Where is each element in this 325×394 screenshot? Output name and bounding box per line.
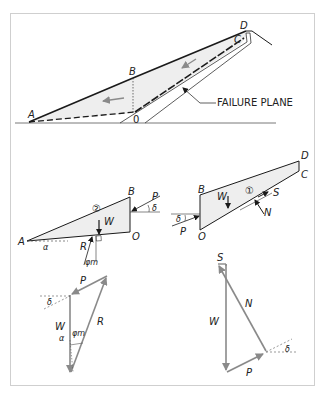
delta-arc	[148, 205, 149, 212]
force-N-arrow	[255, 200, 264, 214]
wedge-1-free-body: ① W S N δ P B O D C	[171, 150, 309, 242]
wedge-2-number: ②	[92, 203, 101, 214]
point-C: C	[234, 34, 241, 45]
top-cross-section: FAILURE PLANE A B D C 0	[15, 20, 293, 125]
polygon-force-P	[227, 354, 263, 372]
label-W: W	[104, 216, 115, 227]
wedge-1-number: ①	[245, 185, 254, 196]
point-O: O	[132, 231, 140, 242]
label-R: R	[80, 241, 87, 252]
label-W: W	[209, 316, 220, 327]
label-alpha: α	[59, 334, 65, 343]
point-B: B	[128, 186, 135, 197]
point-C: C	[301, 169, 308, 180]
label-S: S	[217, 252, 224, 263]
label-N: N	[245, 298, 253, 309]
label-N: N	[264, 207, 272, 218]
label-phi-m: φm	[72, 329, 85, 338]
label-R: R	[97, 316, 104, 327]
point-A: A	[27, 109, 35, 120]
label-P: P	[80, 275, 87, 286]
label-delta: δ	[176, 215, 181, 224]
force-polygon-2: P δ W α φm R	[40, 275, 107, 372]
point-D: D	[240, 20, 248, 31]
wedge-2-shape	[27, 197, 130, 241]
point-O: 0	[133, 114, 139, 125]
label-P: P	[152, 191, 159, 202]
point-B: B	[198, 184, 205, 195]
failure-plane-label: FAILURE PLANE	[217, 97, 293, 108]
label-P: P	[246, 367, 253, 378]
label-delta: δ	[152, 204, 157, 213]
point-A: A	[17, 236, 25, 247]
point-O: O	[198, 231, 206, 242]
label-delta: δ	[285, 345, 290, 354]
label-phi-m: φm	[85, 258, 98, 267]
slope-stability-diagram: FAILURE PLANE A B D C 0 ② W P δ R φm A α…	[0, 0, 325, 394]
force-polygon-1: S N W P δ	[209, 252, 296, 378]
label-W: W	[217, 191, 228, 202]
tension-crack	[246, 33, 251, 43]
delta-arc	[185, 215, 186, 221]
label-alpha: α	[43, 243, 49, 252]
point-D: D	[301, 150, 309, 161]
right-angle-mark	[96, 236, 101, 241]
label-W: W	[55, 321, 66, 332]
label-S: S	[273, 187, 280, 198]
label-P: P	[180, 226, 187, 237]
wedge-2-free-body: ② W P δ R φm A α B O	[17, 186, 160, 267]
point-B: B	[129, 66, 136, 77]
label-delta: δ	[47, 298, 52, 307]
